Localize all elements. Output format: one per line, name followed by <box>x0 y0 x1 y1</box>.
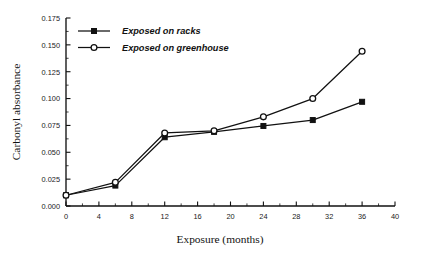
x-tick-label: 40 <box>391 212 399 221</box>
legend-label-racks: Exposed on racks <box>122 26 201 36</box>
x-tick-label: 28 <box>292 212 300 221</box>
carbonyl-absorbance-line-chart: 0.0000.0250.0500.0750.1000.1250.1500.175… <box>0 0 425 256</box>
data-point-racks-marker-filled-square <box>261 123 266 128</box>
data-point-greenhouse-marker-open-circle <box>310 96 316 102</box>
data-point-greenhouse-marker-open-circle <box>112 179 118 185</box>
x-tick-label: 24 <box>259 212 267 221</box>
y-tick-label: 0.025 <box>42 175 61 184</box>
legend-label-greenhouse: Exposed on greenhouse <box>122 43 229 53</box>
y-tick-label: 0.175 <box>42 14 61 23</box>
x-tick-label: 36 <box>358 212 366 221</box>
y-tick-label: 0.050 <box>42 148 61 157</box>
data-point-greenhouse-marker-open-circle <box>261 114 267 120</box>
data-point-greenhouse-marker-open-circle <box>359 48 365 54</box>
x-tick-label: 0 <box>64 212 68 221</box>
x-tick-label: 12 <box>161 212 169 221</box>
x-axis-title: Exposure (months) <box>177 233 264 246</box>
x-tick-label: 8 <box>130 212 134 221</box>
legend-sample-marker-filled-square <box>92 29 97 34</box>
legend-sample-marker-open-circle <box>91 45 97 51</box>
x-tick-label: 4 <box>97 212 101 221</box>
y-tick-label: 0.075 <box>42 121 61 130</box>
x-tick-label: 32 <box>325 212 333 221</box>
data-point-racks-marker-filled-square <box>360 99 365 104</box>
x-tick-label: 20 <box>226 212 234 221</box>
y-tick-label: 0.100 <box>42 94 61 103</box>
y-tick-label: 0.000 <box>42 202 61 211</box>
x-tick-label: 16 <box>193 212 201 221</box>
y-tick-label: 0.125 <box>42 68 61 77</box>
data-point-greenhouse-marker-open-circle <box>63 192 69 198</box>
data-point-racks-marker-filled-square <box>310 118 315 123</box>
data-point-greenhouse-marker-open-circle <box>211 128 217 134</box>
y-tick-label: 0.150 <box>42 41 61 50</box>
data-point-greenhouse-marker-open-circle <box>162 130 168 136</box>
y-axis-title: Carbonyl absorbance <box>10 64 22 160</box>
chart-figure: 0.0000.0250.0500.0750.1000.1250.1500.175… <box>0 0 425 256</box>
